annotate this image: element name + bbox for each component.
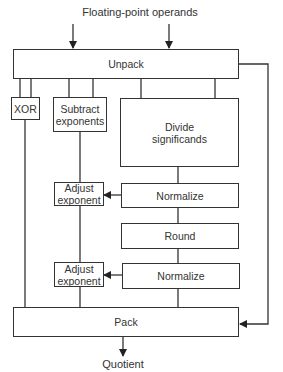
subtract-exponents-label-1: Subtract [60, 103, 99, 115]
normalize-block-b: Normalize [122, 263, 240, 289]
divide-label-1: Divide [165, 121, 194, 133]
divide-significands-block: Divide significands [120, 98, 239, 167]
normalize-a-label: Normalize [156, 190, 203, 202]
adjust-exponent-block-a: Adjust exponent [54, 182, 104, 206]
divide-label-2: significands [152, 133, 207, 145]
subtract-exponents-block: Subtract exponents [53, 97, 107, 132]
normalize-b-label: Normalize [157, 270, 204, 282]
adjust-exponent-a-label-1: Adjust [64, 182, 93, 194]
adjust-exponent-a-label-2: exponent [57, 194, 100, 206]
xor-label: XOR [14, 103, 37, 115]
input-label: Floating-point operands [60, 6, 220, 18]
pack-label: Pack [114, 316, 137, 328]
round-block: Round [121, 223, 239, 249]
unpack-block: Unpack [13, 49, 239, 79]
adjust-exponent-block-b: Adjust exponent [54, 262, 104, 287]
round-label: Round [165, 230, 196, 242]
subtract-exponents-label-2: exponents [56, 115, 104, 127]
xor-block: XOR [11, 97, 40, 120]
output-label: Quotient [83, 358, 163, 370]
unpack-label: Unpack [108, 58, 144, 70]
adjust-exponent-b-label-1: Adjust [64, 263, 93, 275]
pack-block: Pack [13, 307, 239, 337]
normalize-block-a: Normalize [121, 183, 239, 208]
adjust-exponent-b-label-2: exponent [57, 275, 100, 287]
